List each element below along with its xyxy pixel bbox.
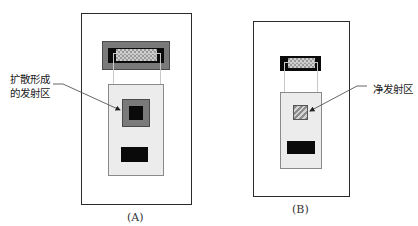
- panel-a-leader-arrow: [53, 84, 120, 110]
- leader-lines-overlay: [0, 0, 418, 226]
- panel-b-leader-arrow: [310, 86, 367, 111]
